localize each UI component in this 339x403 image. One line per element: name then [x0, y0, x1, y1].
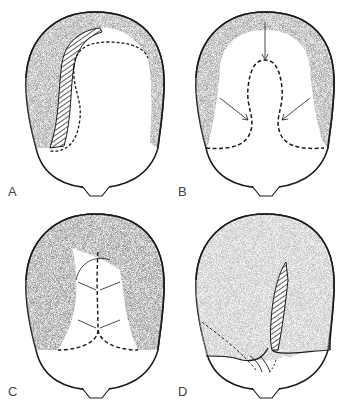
- scalp-diagram-a: [20, 8, 170, 203]
- panel-d: D: [190, 210, 339, 403]
- panel-label-a: A: [8, 184, 17, 199]
- panel-label-d: D: [178, 384, 187, 399]
- panel-label-b: B: [178, 184, 187, 199]
- scalp-diagram-b: [190, 8, 339, 203]
- scalp-diagram-c: [20, 210, 170, 403]
- panel-a: A: [20, 8, 170, 203]
- nose-icon: [82, 388, 110, 398]
- panel-label-c: C: [8, 384, 17, 399]
- nose-icon: [82, 186, 110, 196]
- nose-icon: [252, 388, 280, 398]
- panel-b: B: [190, 8, 339, 203]
- panel-c: C: [20, 210, 170, 403]
- nose-icon: [252, 186, 280, 196]
- scalp-diagram-d: [190, 210, 339, 403]
